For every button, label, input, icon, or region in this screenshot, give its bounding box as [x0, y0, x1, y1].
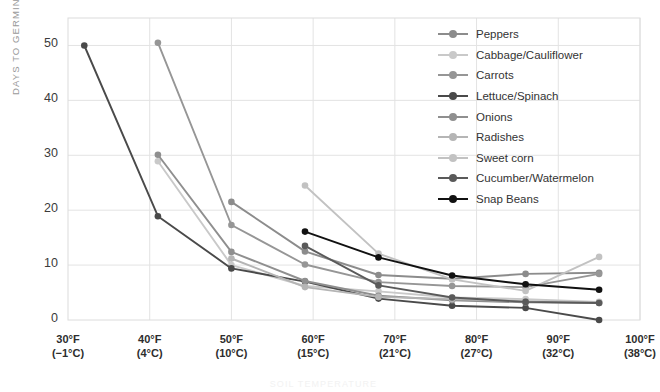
legend-marker-icon — [438, 50, 468, 60]
data-point — [228, 255, 235, 262]
legend-label: Lettuce/Spinach — [476, 90, 558, 102]
data-point — [449, 272, 456, 279]
legend-item-peppers[interactable]: Peppers — [438, 24, 594, 45]
legend-label: Snap Beans — [476, 193, 539, 205]
legend-marker-icon — [438, 70, 468, 80]
legend-item-snap-beans[interactable]: Snap Beans — [438, 189, 594, 210]
legend-item-radishes[interactable]: Radishes — [438, 127, 594, 148]
legend-marker-icon — [438, 173, 468, 183]
data-point — [302, 243, 309, 250]
data-point — [302, 261, 309, 268]
data-point — [596, 300, 603, 307]
legend-item-onions[interactable]: Onions — [438, 106, 594, 127]
data-point — [302, 284, 309, 291]
data-point — [228, 199, 235, 206]
data-point — [596, 317, 603, 324]
data-point — [596, 271, 603, 278]
legend-marker-icon — [438, 112, 468, 122]
data-point — [228, 265, 235, 272]
chart-legend: PeppersCabbage/CauliflowerCarrotsLettuce… — [438, 24, 594, 209]
data-point — [155, 213, 162, 220]
legend-item-cabbage-cauliflower[interactable]: Cabbage/Cauliflower — [438, 45, 594, 66]
legend-marker-icon — [438, 29, 468, 39]
data-point — [522, 271, 529, 278]
data-point — [228, 222, 235, 229]
data-point — [596, 287, 603, 294]
data-point — [302, 278, 309, 285]
data-point — [302, 228, 309, 235]
data-point — [375, 254, 382, 261]
legend-label: Radishes — [476, 131, 524, 143]
data-point — [228, 249, 235, 256]
data-point — [302, 182, 309, 189]
legend-label: Peppers — [476, 28, 519, 40]
legend-item-carrots[interactable]: Carrots — [438, 65, 594, 86]
data-point — [375, 282, 382, 289]
legend-label: Sweet corn — [476, 152, 534, 164]
data-point — [375, 272, 382, 279]
legend-marker-icon — [438, 132, 468, 142]
data-point — [155, 39, 162, 46]
legend-marker-icon — [438, 91, 468, 101]
series-peppers — [228, 199, 602, 283]
data-point — [155, 151, 162, 158]
legend-item-lettuce-spinach[interactable]: Lettuce/Spinach — [438, 86, 594, 107]
legend-marker-icon — [438, 153, 468, 163]
data-point — [375, 294, 382, 301]
data-point — [596, 254, 603, 261]
legend-marker-icon — [438, 194, 468, 204]
data-point — [522, 299, 529, 306]
legend-label: Carrots — [476, 69, 514, 81]
data-point — [449, 294, 456, 301]
data-point — [81, 42, 88, 49]
legend-label: Cabbage/Cauliflower — [476, 49, 583, 61]
data-point — [449, 283, 456, 290]
data-point — [522, 281, 529, 288]
legend-item-sweet-corn[interactable]: Sweet corn — [438, 148, 594, 169]
legend-item-cucumber-watermelon[interactable]: Cucumber/Watermelon — [438, 168, 594, 189]
legend-label: Cucumber/Watermelon — [476, 172, 594, 184]
data-point — [522, 288, 529, 295]
legend-label: Onions — [476, 111, 512, 123]
